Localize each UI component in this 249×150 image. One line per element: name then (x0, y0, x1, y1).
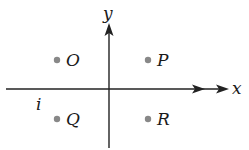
y-axis-label: y (102, 3, 113, 23)
point-r-label: R (156, 109, 170, 129)
point-q-label: Q (66, 109, 80, 129)
point-p-label: P (156, 50, 169, 70)
point-q-dot (54, 116, 60, 122)
coordinate-plane: x y i O P Q R (0, 0, 249, 150)
point-p-dot (145, 57, 151, 63)
i-label: i (36, 94, 41, 114)
x-axis-label: x (232, 78, 242, 98)
point-o-label: O (66, 50, 80, 70)
point-r-dot (145, 116, 151, 122)
point-o-dot (54, 57, 60, 63)
